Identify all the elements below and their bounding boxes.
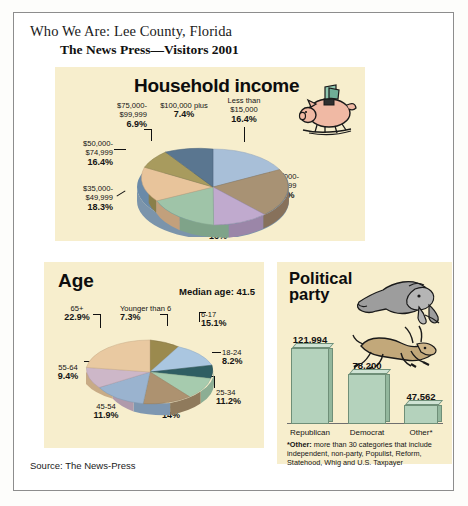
panel-household-income: Household income	[55, 67, 365, 241]
income-label-75000: $75,000- $99,999 6.9%	[95, 101, 147, 129]
other-footnote: *Other: more than 30 categories that inc…	[287, 440, 445, 468]
bar-side-face	[386, 374, 390, 422]
bar-republican: 121,994 Republican	[291, 348, 329, 424]
bar-label-democrat: Democrat	[350, 428, 385, 437]
political-party-bar-chart: 121,994 Republican 78,200 Democrat 47,56…	[287, 340, 443, 436]
household-income-pie	[133, 129, 293, 237]
header-title: Who We Are: Lee County, Florida	[30, 23, 232, 40]
bar-face	[404, 405, 438, 424]
bar-other: 47,562 Other*	[404, 405, 438, 424]
income-label-50000: $50,000- $74,999 16.4%	[57, 139, 113, 167]
bar-label-other: Other*	[409, 428, 432, 437]
bar-face	[348, 374, 386, 424]
income-label-lessthan15000: Less than $15,000 16.4%	[218, 96, 270, 124]
age-pie	[82, 324, 218, 420]
bar-top-face	[349, 369, 391, 374]
leader-line	[160, 314, 168, 315]
leader-line	[199, 312, 200, 322]
political-party-title: Political party	[289, 270, 352, 302]
age-label-18-24: 18-24 8.2%	[222, 348, 262, 367]
household-income-title: Household income	[134, 75, 299, 97]
leader-line	[199, 312, 206, 313]
bar-label-republican: Republican	[290, 428, 330, 437]
infographic-frame: Who We Are: Lee County, Florida The News…	[13, 12, 454, 491]
bar-face	[291, 348, 329, 424]
leader-line	[93, 314, 101, 315]
panel-age: Age Median age: 41.5 65+ 22.9% Younger t…	[44, 262, 264, 448]
age-title: Age	[58, 270, 94, 292]
bar-democrat: 78,200 Democrat	[348, 374, 386, 424]
income-label-100000plus: $100,000 plus 7.4%	[153, 101, 215, 120]
median-age-annotation: Median age: 41.5	[179, 286, 255, 297]
age-label-younger-than-6: Younger than 6 7.3%	[120, 304, 188, 323]
panel-political-party: Political party	[277, 262, 452, 464]
income-label-35000: $35,000- $49,999 18.3%	[57, 184, 113, 212]
source-line: Source: The News-Press	[30, 460, 135, 471]
footnote-label: *Other:	[287, 440, 312, 449]
age-label-25-34: 25-34 11.2%	[216, 388, 260, 407]
leader-line	[114, 149, 126, 150]
age-label-55-64: 55-64 9.4%	[50, 363, 86, 382]
bar-side-face	[329, 348, 333, 422]
bar-top-face	[292, 343, 334, 348]
infographic-page: Who We Are: Lee County, Florida The News…	[0, 0, 468, 506]
piggy-bank-icon	[295, 83, 363, 137]
leader-line	[116, 190, 125, 196]
age-label-65plus: 65+ 22.9%	[56, 304, 98, 323]
header-subtitle: The News Press—Visitors 2001	[60, 42, 239, 58]
bar-side-face	[438, 405, 442, 422]
